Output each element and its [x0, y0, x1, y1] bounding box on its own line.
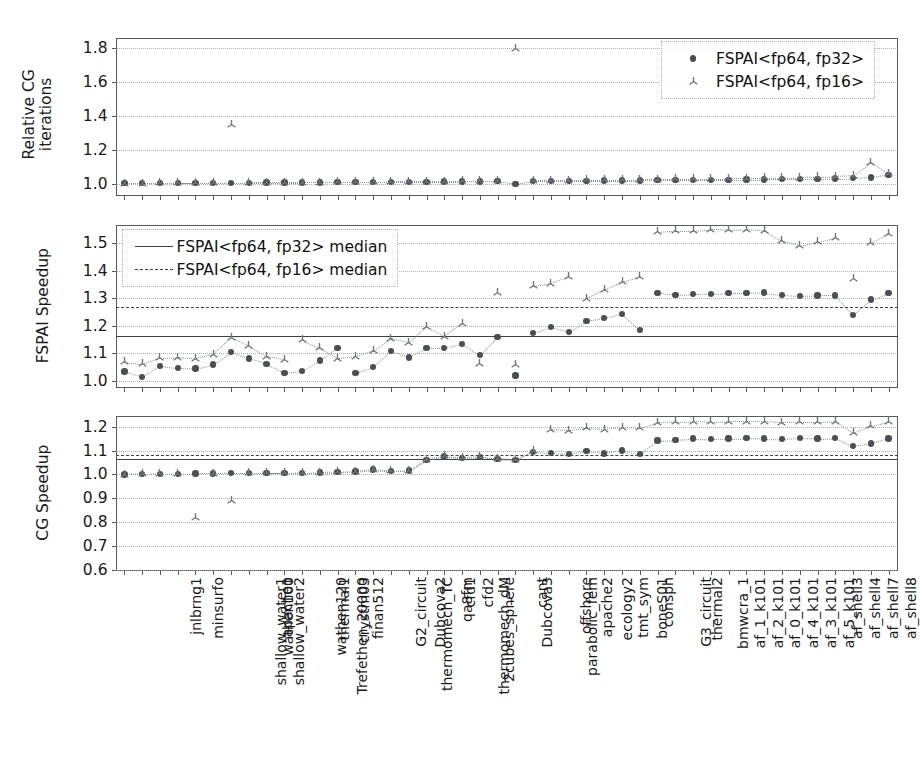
- y-tick-mark: [112, 243, 116, 244]
- data-point-fp32: [512, 372, 518, 378]
- data-point-fp32: [708, 291, 714, 297]
- data-point-fp16: [369, 177, 378, 186]
- data-point-fp16: [813, 237, 822, 246]
- x-tick-mark: [764, 196, 765, 200]
- legend-row: FSPAI<fp64, fp16> median: [131, 258, 388, 281]
- data-point-fp16: [227, 333, 236, 342]
- data-point-fp32: [725, 435, 731, 441]
- data-point-fp16: [386, 466, 395, 475]
- data-point-fp16: [138, 359, 147, 368]
- y-gridline: [116, 451, 898, 452]
- data-point-fp16: [831, 233, 840, 242]
- x-tick-mark: [320, 388, 321, 392]
- data-point-fp16: [475, 176, 484, 185]
- x-tick-mark: [533, 196, 534, 200]
- x-tick-mark: [640, 571, 641, 575]
- legend-line-solid-icon: [135, 246, 173, 247]
- x-tick-mark: [889, 196, 890, 200]
- data-point-fp16: [209, 178, 218, 187]
- x-tick-mark: [569, 388, 570, 392]
- x-tick-mark: [800, 388, 801, 392]
- legend-label: FSPAI<fp64, fp32>: [716, 50, 864, 68]
- x-tick-mark: [782, 196, 783, 200]
- x-tick-mark: [871, 388, 872, 392]
- data-point-fp16: [298, 335, 307, 344]
- x-tick-mark: [835, 388, 836, 392]
- data-point-fp32: [121, 368, 127, 374]
- y-tick-label: 1.4: [54, 107, 108, 125]
- legend-key: [131, 246, 177, 247]
- data-point-fp32: [352, 370, 358, 376]
- data-point-fp16: [280, 468, 289, 477]
- x-tick-label: af_0_k101: [788, 577, 804, 648]
- data-point-fp16: [671, 417, 680, 426]
- y-gridline: [116, 381, 898, 382]
- data-point-fp16: [618, 175, 627, 184]
- data-point-fp16: [458, 319, 467, 328]
- data-point-fp16: [262, 468, 271, 477]
- x-tick-mark: [213, 196, 214, 200]
- legend-panel-1: FSPAI<fp64, fp32>FSPAI<fp64, fp16>: [661, 41, 875, 99]
- x-tick-mark: [267, 388, 268, 392]
- x-tick-label: af_shell8: [903, 577, 919, 639]
- y-tick-mark: [112, 82, 116, 83]
- x-tick-mark: [427, 388, 428, 392]
- data-point-fp16: [849, 274, 858, 283]
- x-tick-mark: [213, 571, 214, 575]
- x-tick-mark: [640, 388, 641, 392]
- x-tick-mark: [320, 571, 321, 575]
- data-point-fp16: [369, 346, 378, 355]
- y-tick-label: 1.3: [54, 289, 108, 307]
- data-point-fp16: [209, 350, 218, 359]
- x-tick-label: cfd1: [462, 577, 478, 607]
- y-tick-label: 1.4: [54, 262, 108, 280]
- data-point-fp32: [566, 329, 572, 335]
- data-point-fp16: [244, 341, 253, 350]
- data-point-fp32: [672, 292, 678, 298]
- x-tick-mark: [338, 388, 339, 392]
- x-tick-mark: [818, 388, 819, 392]
- data-point-fp32: [672, 437, 678, 443]
- x-tick-mark: [373, 196, 374, 200]
- x-tick-mark: [302, 196, 303, 200]
- data-point-fp16: [742, 225, 751, 234]
- data-point-fp16: [440, 451, 449, 460]
- data-point-fp16: [138, 469, 147, 478]
- data-point-fp16: [706, 417, 715, 426]
- y-axis-label-2: FSPAI Speedup: [35, 204, 52, 407]
- data-point-fp16: [777, 418, 786, 427]
- data-point-fp16: [333, 177, 342, 186]
- data-point-fp32: [583, 318, 589, 324]
- data-point-fp16: [760, 173, 769, 182]
- x-tick-mark: [320, 196, 321, 200]
- x-tick-mark: [355, 196, 356, 200]
- data-point-fp16: [618, 277, 627, 286]
- data-point-fp16: [600, 285, 609, 294]
- x-tick-mark: [302, 571, 303, 575]
- x-tick-mark: [764, 571, 765, 575]
- data-point-fp16: [760, 417, 769, 426]
- x-tick-label: consph: [660, 577, 676, 627]
- x-tick-mark: [284, 196, 285, 200]
- x-tick-mark: [746, 571, 747, 575]
- data-point-fp32: [246, 355, 252, 361]
- data-point-fp16: [653, 175, 662, 184]
- y-tick-mark: [112, 271, 116, 272]
- data-point-fp32: [601, 450, 607, 456]
- data-point-fp16: [618, 423, 627, 432]
- x-tick-mark: [604, 196, 605, 200]
- x-tick-label: cant: [534, 577, 550, 608]
- data-point-fp16: [564, 426, 573, 435]
- x-tick-label: jnlbrng1: [188, 577, 204, 635]
- x-tick-mark: [675, 571, 676, 575]
- x-tick-mark: [302, 388, 303, 392]
- legend-label: FSPAI<fp64, fp16> median: [177, 261, 388, 279]
- x-tick-mark: [462, 196, 463, 200]
- x-tick-label: bmwcra_1: [735, 577, 751, 649]
- x-tick-label: Dubcova2: [432, 577, 448, 648]
- y-tick-mark: [112, 184, 116, 185]
- data-point-fp16: [724, 417, 733, 426]
- x-tick-mark: [711, 571, 712, 575]
- x-tick-mark: [498, 196, 499, 200]
- x-tick-mark: [515, 571, 516, 575]
